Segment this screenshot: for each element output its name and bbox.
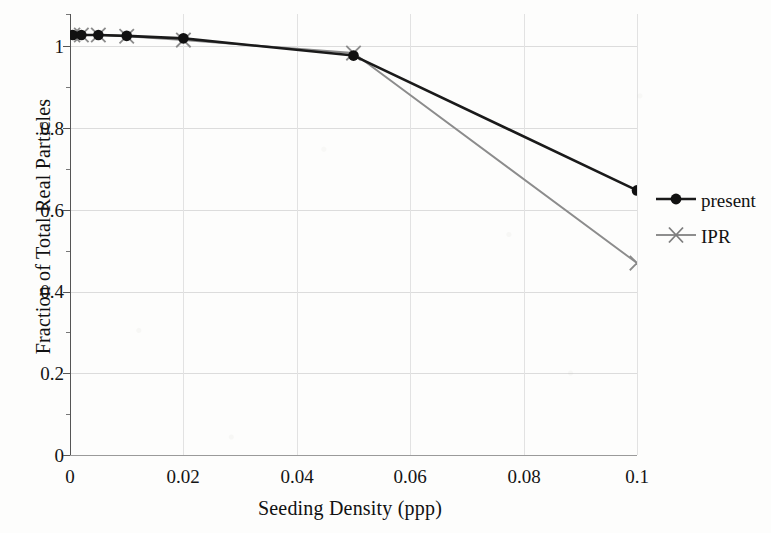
gridline-x-0.1: [637, 14, 638, 455]
data-series-layer: [70, 14, 637, 455]
legend-entry-present: present: [655, 188, 771, 224]
legend-marker-filled-circle-icon: [655, 188, 697, 210]
y-tick-mark-0.6: [63, 210, 70, 211]
x-axis-line: [70, 455, 637, 456]
chart-figure: Fraction of Total Real Particles 1 0.8 0…: [0, 0, 771, 533]
plot-area: [70, 14, 637, 455]
data-point-present: [121, 31, 132, 42]
y-tick-mark-0: [63, 455, 70, 456]
y-tick-label-0.6: 0.6: [8, 200, 64, 222]
legend-label-ipr: IPR: [701, 226, 731, 248]
x-tick-label-0.06: 0.06: [375, 466, 445, 488]
x-tick-label-0.04: 0.04: [262, 466, 332, 488]
legend-marker-cross-x-icon: [655, 224, 697, 246]
x-tick-label-0.08: 0.08: [489, 466, 559, 488]
data-point-present: [632, 185, 637, 196]
x-axis-title: Seeding Density (ppp): [0, 497, 700, 520]
y-tick-label-0.4: 0.4: [8, 281, 64, 303]
y-tick-mark-1: [63, 46, 70, 47]
y-tick-label-0.8: 0.8: [8, 118, 64, 140]
data-point-present: [178, 33, 189, 44]
legend-label-present: present: [701, 190, 756, 212]
y-axis-title: Fraction of Total Real Particles: [32, 62, 55, 392]
y-tick-label-0.2: 0.2: [8, 363, 64, 385]
x-tick-label-0: 0: [35, 466, 105, 488]
data-point-present: [348, 50, 359, 61]
chart-legend: present IPR: [655, 188, 771, 260]
y-tick-mark-0.4: [63, 292, 70, 293]
legend-entry-ipr: IPR: [655, 224, 771, 260]
x-tick-label-0.1: 0.1: [602, 466, 672, 488]
data-point-present: [93, 30, 104, 41]
y-tick-mark-0.2: [63, 373, 70, 374]
x-tick-label-0.02: 0.02: [148, 466, 218, 488]
y-tick-mark-0.8: [63, 128, 70, 129]
data-point-present: [76, 30, 87, 41]
y-tick-label-0: 0: [8, 445, 64, 467]
series-present: [70, 30, 637, 196]
y-tick-label-1: 1: [8, 36, 64, 58]
